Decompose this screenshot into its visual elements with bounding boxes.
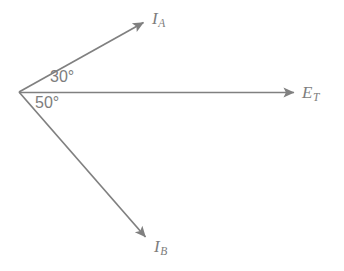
vector-symbol-i-a: I bbox=[152, 9, 158, 28]
vector-label-e-t: ET bbox=[302, 84, 319, 104]
angle-label-30-degrees: 30° bbox=[50, 69, 74, 85]
vector-subscript-e-t: T bbox=[313, 91, 319, 103]
vector-symbol-e-t: E bbox=[302, 83, 312, 102]
phasor-vector-canvas bbox=[0, 0, 344, 271]
vector-line-i-b bbox=[19, 92, 146, 237]
vector-line-i-a bbox=[19, 23, 144, 93]
vector-symbol-i-b: I bbox=[154, 237, 160, 256]
vector-label-i-b: IB bbox=[154, 238, 167, 258]
vector-subscript-i-a: A bbox=[158, 17, 165, 29]
vector-label-i-a: IA bbox=[152, 10, 165, 30]
vector-subscript-i-b: B bbox=[160, 245, 167, 257]
phasor-diagram: IA ET IB 30° 50° bbox=[0, 0, 344, 271]
angle-label-50-degrees: 50° bbox=[35, 95, 59, 111]
